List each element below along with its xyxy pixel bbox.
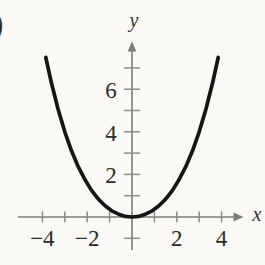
x-tick-label: −4	[30, 227, 54, 250]
x-tick-label: 2	[171, 227, 183, 250]
x-tick-label: −2	[75, 227, 99, 250]
y-tick-label: 2	[105, 164, 117, 187]
y-axis-arrowhead	[128, 42, 137, 52]
x-axis-arrowhead	[234, 213, 244, 222]
y-tick-label: 6	[105, 79, 117, 102]
parabola-graph-figure: ) −4−224246 x y	[0, 0, 265, 265]
y-tick-label: 4	[105, 121, 117, 144]
x-axis-label: x	[253, 204, 262, 224]
y-axis-label: y	[130, 10, 139, 30]
x-tick-label: 4	[216, 227, 228, 250]
